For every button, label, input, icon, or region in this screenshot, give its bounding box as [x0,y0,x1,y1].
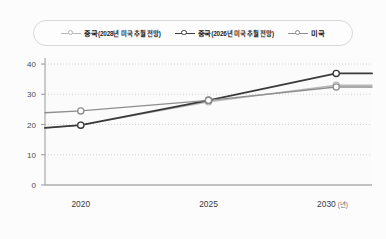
data-point[interactable] [78,108,84,114]
data-point[interactable] [205,97,211,103]
legend-item-china-2028[interactable]: 중국(2028년 미국 추월 전망) [61,28,160,38]
legend-item-usa[interactable]: 미국 [288,28,325,38]
legend-item-china-2026[interactable]: 중국(2026년 미국 추월 전망) [175,28,274,38]
legend-label-china-2026: 중국(2026년 미국 추월 전망) [198,28,274,38]
legend-label-usa: 미국 [311,28,325,38]
x-axis-labels: 202020252030(년) [0,195,386,215]
x-tick-label: 2020 [71,199,90,209]
x-axis-unit-label: (년) [338,201,348,208]
x-tick-label-text: 2020 [71,199,90,209]
data-point[interactable] [333,70,339,76]
legend-marker-icon [288,29,308,38]
x-tick-label: 2030(년) [317,199,348,209]
legend-marker-icon [175,29,195,38]
x-tick-label-text: 2030 [317,199,336,209]
data-point[interactable] [333,84,339,90]
plot-area: 403020100 202020252030(년) [0,52,386,212]
legend-label-china-2028: 중국(2028년 미국 추월 전망) [84,28,160,38]
chart-canvas [0,52,386,197]
chart-legend: 중국(2028년 미국 추월 전망) 중국(2026년 미국 추월 전망) 미국 [33,20,353,46]
chart-figure: 중국(2028년 미국 추월 전망) 중국(2026년 미국 추월 전망) 미국… [0,0,386,239]
data-point[interactable] [78,122,84,128]
x-tick-label-text: 2025 [199,199,218,209]
legend-marker-icon [61,29,81,38]
x-tick-label: 2025 [199,199,218,209]
